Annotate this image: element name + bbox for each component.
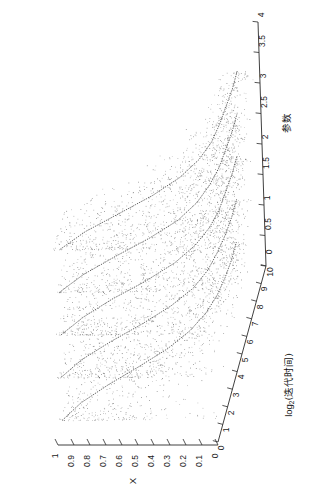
data-point — [172, 295, 173, 296]
data-point — [112, 308, 113, 309]
data-point — [231, 254, 232, 255]
data-point — [201, 246, 202, 247]
data-point — [70, 309, 71, 310]
data-point — [115, 335, 116, 336]
data-point — [135, 317, 136, 318]
data-point — [151, 314, 152, 315]
data-point — [217, 182, 218, 183]
data-point — [102, 207, 103, 208]
data-point — [143, 316, 144, 317]
data-point — [197, 249, 198, 250]
data-point — [75, 250, 76, 251]
data-point — [210, 161, 211, 162]
data-point — [210, 203, 211, 204]
data-point — [244, 180, 245, 181]
data-point — [171, 242, 172, 243]
data-point — [223, 211, 224, 212]
data-point — [69, 243, 70, 244]
data-point — [139, 340, 140, 341]
data-point — [104, 270, 105, 271]
data-point — [154, 361, 155, 362]
data-point — [218, 303, 219, 304]
data-point — [130, 279, 131, 280]
data-point — [228, 181, 229, 182]
data-point — [72, 416, 73, 417]
data-point — [235, 136, 236, 137]
data-point — [200, 224, 201, 225]
data-point — [95, 254, 96, 255]
data-point — [146, 323, 147, 324]
data-point — [197, 270, 198, 271]
data-point — [196, 185, 197, 186]
data-point — [141, 388, 142, 389]
data-point — [233, 241, 234, 242]
data-point — [72, 396, 73, 397]
data-point — [174, 313, 175, 314]
data-point — [96, 218, 97, 219]
data-point — [178, 253, 179, 254]
data-point — [239, 215, 240, 216]
data-point — [193, 334, 194, 335]
data-point — [233, 307, 234, 308]
data-point — [191, 310, 192, 311]
data-point — [231, 104, 232, 105]
data-point — [135, 315, 136, 316]
data-point — [223, 129, 224, 130]
data-point — [156, 367, 157, 368]
data-point — [119, 360, 120, 361]
data-point — [91, 332, 92, 333]
data-point — [192, 245, 193, 246]
data-point — [130, 415, 131, 416]
data-point — [210, 228, 211, 229]
data-point — [227, 326, 228, 327]
data-point — [226, 162, 227, 163]
data-point — [205, 213, 206, 214]
data-point — [207, 295, 208, 296]
data-point — [167, 284, 168, 285]
data-point — [110, 368, 111, 369]
data-point — [85, 325, 86, 326]
data-point — [157, 179, 158, 180]
data-point — [208, 257, 209, 258]
data-point — [60, 373, 61, 374]
data-point — [174, 250, 175, 251]
data-point — [235, 105, 236, 106]
data-point — [150, 231, 151, 232]
data-point — [65, 279, 66, 280]
data-point — [218, 296, 219, 297]
data-point — [161, 409, 162, 410]
data-point — [120, 265, 121, 266]
data-point — [227, 203, 228, 204]
data-point — [160, 328, 161, 329]
data-point — [241, 187, 242, 188]
data-point — [217, 272, 218, 273]
data-point — [231, 169, 232, 170]
data-point — [154, 181, 155, 182]
data-point — [113, 214, 114, 215]
data-point — [225, 217, 226, 218]
data-point — [194, 261, 195, 262]
data-point — [229, 201, 230, 202]
data-point — [222, 181, 223, 182]
data-point — [222, 227, 223, 228]
data-point — [64, 278, 65, 279]
data-point — [154, 225, 155, 226]
data-point — [210, 318, 211, 319]
data-point — [88, 348, 89, 349]
data-point — [113, 361, 114, 362]
data-point — [223, 113, 224, 114]
data-point — [133, 361, 134, 362]
data-point — [234, 88, 235, 89]
data-point — [201, 152, 202, 153]
data-point — [150, 346, 151, 347]
data-point — [126, 261, 127, 262]
data-point — [99, 322, 100, 323]
data-point — [154, 223, 155, 224]
data-point — [150, 373, 151, 374]
data-point — [189, 165, 190, 166]
data-point — [96, 291, 97, 292]
data-point — [85, 382, 86, 383]
data-point — [212, 253, 213, 254]
data-point — [234, 205, 235, 206]
data-point — [232, 270, 233, 271]
